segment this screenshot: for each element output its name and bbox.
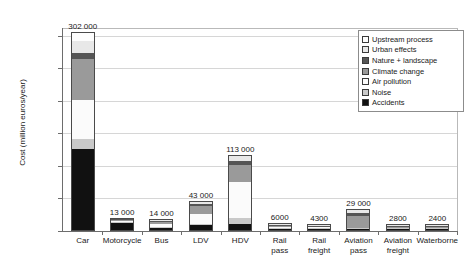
bar-value-label: 14 000 [149, 209, 173, 218]
bar-segment [150, 228, 172, 230]
bar[interactable] [189, 201, 213, 231]
bar-segment [190, 225, 212, 230]
legend-swatch-icon [362, 99, 369, 106]
x-axis-label: Motorcycle [103, 236, 142, 246]
bar-value-label: 302 000 [68, 22, 97, 31]
x-tick-mark [260, 231, 261, 235]
legend-item[interactable]: Nature + landscape [362, 55, 461, 66]
x-tick-mark [339, 231, 340, 235]
x-tick-mark [181, 231, 182, 235]
bar[interactable] [71, 32, 95, 231]
bar-slot [181, 29, 220, 231]
legend-swatch-icon [362, 46, 369, 53]
legend-item-label: Accidents [372, 98, 405, 107]
bar-value-label: 2800 [389, 214, 407, 223]
x-tick-mark [299, 231, 300, 235]
bar[interactable] [307, 224, 331, 231]
legend-swatch-icon [362, 89, 369, 96]
bar-segment [426, 229, 448, 230]
bar-segment [111, 223, 133, 230]
y-tick-mark [58, 198, 62, 199]
bar-value-label: 43 000 [189, 191, 213, 200]
legend-item[interactable]: Air pollution [362, 76, 461, 87]
bar-segment [308, 229, 330, 230]
legend-item-label: Upstream process [372, 35, 433, 44]
legend-item[interactable]: Noise [362, 87, 461, 98]
y-tick-mark [58, 133, 62, 134]
bar-segment [72, 59, 94, 99]
bar-slot [299, 29, 338, 231]
bar-value-label: 13 000 [110, 208, 134, 217]
bar-segment [347, 229, 369, 230]
y-tick-mark [58, 68, 62, 69]
legend-item[interactable]: Climate change [362, 66, 461, 77]
bar-slot [260, 29, 299, 231]
bar-segment [269, 229, 291, 230]
legend-swatch-icon [362, 68, 369, 75]
bar-segment [72, 33, 94, 41]
bar-segment [190, 206, 212, 214]
bar-slot [142, 29, 181, 231]
x-axis-label: Rail pass [271, 236, 288, 255]
legend-item[interactable]: Accidents [362, 98, 461, 109]
legend-item-label: Climate change [372, 67, 424, 76]
bar-segment [190, 214, 212, 224]
x-tick-mark [457, 231, 458, 235]
bar-segment [72, 149, 94, 230]
bar[interactable] [149, 219, 173, 231]
x-axis-label: LDV [193, 236, 209, 246]
y-tick-mark [58, 231, 62, 232]
bar-segment [347, 216, 369, 228]
legend: Upstream processUrban effectsNature + la… [358, 30, 464, 112]
bar[interactable] [386, 224, 410, 231]
y-axis-title: Cost (million euros/year) [18, 48, 27, 198]
legend-item-label: Air pollution [372, 77, 411, 86]
legend-item[interactable]: Upstream process [362, 34, 461, 45]
legend-swatch-icon [362, 36, 369, 43]
bar-segment [229, 224, 251, 230]
x-axis-label: Aviation freight [384, 236, 412, 255]
stacked-bar-chart: Cost (million euros/year) 050 000100 000… [0, 0, 468, 280]
bar[interactable] [110, 218, 134, 231]
bar-segment [229, 182, 251, 218]
y-tick-mark [58, 166, 62, 167]
bar-value-label: 6000 [271, 213, 289, 222]
x-axis-label: Rail freight [308, 236, 330, 255]
bar-slot [221, 29, 260, 231]
bar-value-label: 2400 [428, 214, 446, 223]
x-axis-label: Aviation pass [344, 236, 372, 255]
bar[interactable] [425, 224, 449, 231]
bar-value-label: 4300 [310, 214, 328, 223]
x-axis-label: HDV [232, 236, 249, 246]
bar-segment [387, 229, 409, 230]
bar[interactable] [268, 223, 292, 231]
x-axis-label: Bus [155, 236, 169, 246]
bar-segment [72, 139, 94, 149]
x-tick-mark [142, 231, 143, 235]
y-tick-mark [58, 36, 62, 37]
bar-segment [72, 41, 94, 53]
bar-slot [102, 29, 141, 231]
bar-value-label: 29 000 [346, 199, 370, 208]
bar[interactable] [228, 155, 252, 231]
x-tick-mark [378, 231, 379, 235]
bar[interactable] [346, 209, 370, 231]
legend-swatch-icon [362, 78, 369, 85]
legend-item-label: Urban effects [372, 45, 416, 54]
x-axis-label: Waterborne [417, 236, 459, 246]
bar-segment [72, 100, 94, 139]
legend-item-label: Nature + landscape [372, 56, 437, 65]
y-tick-mark [58, 101, 62, 102]
legend-item[interactable]: Urban effects [362, 45, 461, 56]
x-tick-mark [221, 231, 222, 235]
x-tick-mark [102, 231, 103, 235]
bar-value-label: 113 000 [226, 145, 254, 154]
x-tick-mark [418, 231, 419, 235]
legend-swatch-icon [362, 57, 369, 64]
x-axis-label: Car [76, 236, 89, 246]
bar-slot [63, 29, 102, 231]
bar-segment [229, 165, 251, 182]
legend-item-label: Noise [372, 88, 391, 97]
